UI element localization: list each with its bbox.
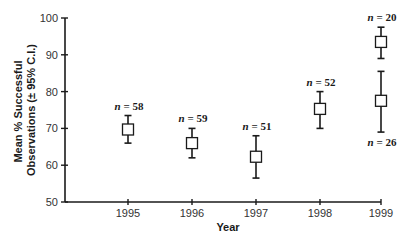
y-axis-title: Mean % Successful Observations (± 95% C.… [12, 44, 37, 176]
mean-marker [315, 103, 326, 114]
y-axis-title-line-1: Mean % Successful [12, 60, 24, 162]
sample-size-label: n = 52 [307, 76, 336, 88]
data-points: n = 58n = 59n = 51n = 52n = 20n = 26 [115, 11, 397, 178]
x-tick-label: 1998 [308, 207, 332, 219]
y-tick-label: 100 [40, 12, 58, 24]
data-point-1998-3: n = 52 [307, 76, 336, 129]
data-point-1995-0: n = 58 [115, 100, 144, 144]
sample-size-label: n = 58 [115, 100, 144, 112]
data-point-1997-2: n = 51 [243, 120, 272, 178]
x-tick-label: 1997 [244, 207, 268, 219]
y-axis: 5060708090100 [40, 12, 68, 208]
sample-size-label: n = 51 [243, 120, 272, 132]
y-tick-label: 90 [46, 49, 58, 61]
mean-marker [123, 124, 134, 135]
x-tick-label: 1996 [180, 207, 204, 219]
y-tick-label: 70 [46, 122, 58, 134]
sample-size-label: n = 20 [368, 11, 397, 23]
y-tick-label: 80 [46, 86, 58, 98]
error-bar-chart: 5060708090100 19951996199719981999 n = 5… [0, 0, 410, 241]
y-axis-title-line-2: Observations (± 95% C.I.) [25, 44, 37, 176]
data-point-1996-1: n = 59 [179, 112, 208, 157]
mean-marker [376, 95, 387, 106]
data-point-1999-4: n = 20 [368, 11, 397, 58]
x-axis: 19951996199719981999 [65, 199, 393, 219]
x-tick-label: 1999 [369, 207, 393, 219]
y-tick-label: 50 [46, 196, 58, 208]
data-point-1999-5: n = 26 [368, 71, 397, 148]
y-tick-label: 60 [46, 159, 58, 171]
sample-size-label: n = 26 [368, 136, 397, 148]
sample-size-label: n = 59 [179, 112, 208, 124]
x-axis-title: Year [216, 221, 240, 233]
mean-marker [251, 151, 262, 162]
x-tick-label: 1995 [116, 207, 140, 219]
mean-marker [376, 36, 387, 47]
mean-marker [187, 138, 198, 149]
